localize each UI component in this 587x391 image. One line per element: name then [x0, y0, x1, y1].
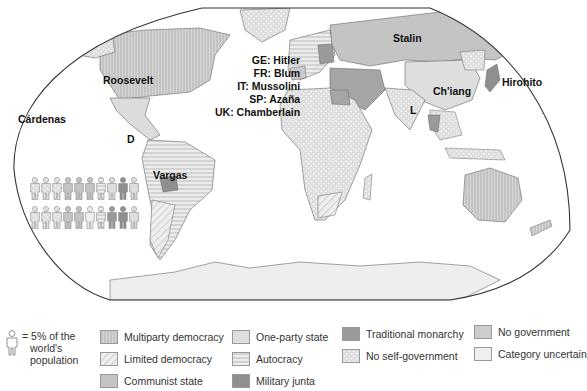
person-figure-icon	[30, 177, 40, 200]
europe-leaders-list: GE: Hitler FR: Blum IT: Mussolini SP: Az…	[215, 54, 300, 119]
greenland	[240, 8, 290, 42]
swatch-dots-icon	[342, 349, 360, 363]
leader-label-india: L	[410, 105, 416, 116]
siam	[428, 115, 440, 132]
person-figure-icon	[107, 206, 117, 229]
swatch-solid-icon	[342, 327, 360, 341]
person-figure-icon	[85, 206, 95, 229]
swatch-solid-icon	[232, 374, 250, 388]
swatch-vertical-lines-icon	[100, 330, 118, 344]
legend-item-one-party-state: One-party state	[232, 330, 328, 344]
swatch-horizontal-lines-icon	[232, 352, 250, 366]
leader-label-china: Ch'iang	[433, 86, 471, 97]
legend-item-category-uncertain: Category uncertain	[474, 347, 587, 361]
map-legend: = 5% of the world's population Multipart…	[0, 318, 584, 391]
swatch-solid-icon	[474, 325, 492, 339]
swatch-solid-icon	[100, 374, 118, 388]
alaska	[75, 32, 115, 58]
legend-item-multiparty-democracy: Multiparty democracy	[100, 330, 224, 344]
leader-label-ussr: Stalin	[393, 33, 422, 44]
person-figure-icon	[41, 177, 51, 200]
legend-item-no-self-government: No self-government	[342, 349, 458, 363]
europe-leader-spain: SP: Azaña	[215, 93, 300, 106]
population-key: = 5% of the world's population	[6, 330, 78, 366]
leader-label-mexico: Cárdenas	[18, 114, 66, 125]
person-figure-icon	[129, 177, 139, 200]
population-key-text: = 5% of the world's population	[22, 330, 78, 366]
swatch-diagonal-lines-icon	[100, 352, 118, 366]
legend-item-military-junta: Military junta	[232, 374, 315, 388]
person-figure-icon	[96, 177, 106, 200]
person-figure-icon	[129, 206, 139, 229]
leader-label-japan: Hirohito	[502, 77, 542, 88]
leader-label-mexico-abbr: D	[127, 134, 135, 145]
person-figure-icon	[96, 206, 106, 229]
europe-leader-italy: IT: Mussolini	[215, 80, 300, 93]
population-pictogram	[30, 177, 139, 235]
germany	[318, 44, 334, 64]
europe-leader-uk: UK: Chamberlain	[215, 106, 300, 119]
person-figure-icon	[118, 177, 128, 200]
person-figure-icon	[63, 177, 73, 200]
swatch-solid-icon	[232, 330, 250, 344]
egypt	[330, 90, 350, 105]
swatch-solid-icon	[474, 347, 492, 361]
indonesia	[445, 148, 505, 160]
person-icon	[6, 330, 18, 356]
europe-leader-germany: GE: Hitler	[215, 54, 300, 67]
legend-item-autocracy: Autocracy	[232, 352, 303, 366]
person-figure-icon	[63, 206, 73, 229]
legend-item-no-government: No government	[474, 325, 570, 339]
person-figure-icon	[52, 177, 62, 200]
legend-item-limited-democracy: Limited democracy	[100, 352, 212, 366]
leader-label-brazil: Vargas	[153, 170, 187, 181]
world-map	[0, 0, 584, 310]
leader-label-us: Roosevelt	[103, 75, 153, 86]
pictogram-row	[30, 177, 139, 200]
ussr	[330, 12, 520, 66]
person-figure-icon	[85, 177, 95, 200]
europe-leader-france: FR: Blum	[215, 67, 300, 80]
person-figure-icon	[52, 206, 62, 229]
japan	[485, 64, 500, 92]
person-figure-icon	[118, 206, 128, 229]
legend-item-traditional-monarchy: Traditional monarchy	[342, 327, 464, 341]
north-america-canada-usa	[100, 28, 230, 100]
new-zealand	[530, 220, 552, 236]
pictogram-row	[30, 206, 139, 229]
mexico	[110, 98, 160, 140]
legend-item-communist-state: Communist state	[100, 374, 203, 388]
person-figure-icon	[30, 206, 40, 229]
person-figure-icon	[74, 206, 84, 229]
person-figure-icon	[107, 177, 117, 200]
australia	[463, 168, 522, 222]
madagascar	[363, 174, 372, 200]
person-figure-icon	[41, 206, 51, 229]
person-figure-icon	[74, 177, 84, 200]
antarctica	[110, 262, 500, 300]
